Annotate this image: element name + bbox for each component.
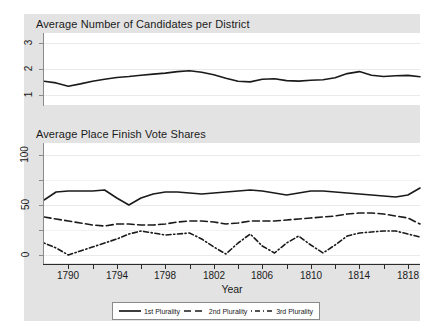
xtick-1790 [68,265,69,269]
series-line-1st-plurality [44,188,420,205]
legend-label-3rd-plurality: 3rd Plurality [276,308,313,315]
solid-line-icon [119,307,141,315]
legend-entry-2nd-plurality[interactable]: 2nd Plurality [184,307,248,315]
xtick-1800 [190,265,191,269]
xlabel-1802: 1802 [194,270,234,281]
xtick-1792 [93,265,94,269]
bottom-panel-y-axis [43,143,44,264]
xtick-1806 [262,265,263,269]
legend-label-1st-plurality: 1st Plurality [144,308,180,315]
ytick-bottom-50 [39,205,43,206]
ylabel-top-3: 3 [23,33,34,53]
top-panel-title: Average Number of Candidates per Distric… [36,18,250,30]
ylabel-bottom-50: 50 [20,194,31,216]
legend-entry-1st-plurality[interactable]: 1st Plurality [119,307,180,315]
series-line-2nd-plurality [44,213,420,226]
legend-entry-3rd-plurality[interactable]: 3rd Plurality [251,307,313,315]
ytick-bottom-0 [39,255,43,256]
xlabel-1794: 1794 [97,270,137,281]
xtick-1810 [311,265,312,269]
ytick-top-1 [39,95,43,96]
bottom-panel-title: Average Place Finish Vote Shares [36,128,206,140]
xtick-1796 [141,265,142,269]
dashed-line-icon [184,307,206,315]
xtick-1804 [238,265,239,269]
series-line-candidates [44,71,420,86]
x-axis-title: Year [44,283,420,295]
xlabel-1798: 1798 [145,270,185,281]
xtick-1814 [359,265,360,269]
ylabel-bottom-100: 100 [19,141,30,169]
ytick-bottom-25 [39,230,43,231]
ytick-bottom-75 [39,180,43,181]
ytick-top-3 [39,43,43,44]
dash-dot-line-icon [251,307,273,315]
legend: 1st Plurality 2nd Plurality 3rd Pluralit… [112,302,320,320]
xlabel-1814: 1814 [339,270,379,281]
chart-figure: Average Number of Candidates per Distric… [0,0,432,335]
xlabel-1810: 1810 [291,270,331,281]
ytick-top-2 [39,69,43,70]
ylabel-top-2: 2 [23,59,34,79]
xtick-1798 [165,265,166,269]
xtick-1818 [408,265,409,269]
ytick-bottom-100 [39,155,43,156]
xtick-1802 [214,265,215,269]
legend-label-2nd-plurality: 2nd Plurality [209,308,248,315]
xlabel-1790: 1790 [48,270,88,281]
xtick-1816 [384,265,385,269]
xtick-1794 [117,265,118,269]
ylabel-top-1: 1 [23,85,34,105]
xlabel-1806: 1806 [242,270,282,281]
ylabel-bottom-0: 0 [20,244,31,266]
xtick-1812 [335,265,336,269]
xtick-1808 [287,265,288,269]
series-line-3rd-plurality [44,231,420,255]
xlabel-1818: 1818 [388,270,428,281]
